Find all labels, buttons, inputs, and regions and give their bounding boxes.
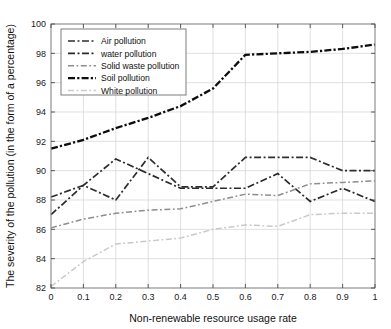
x-tick-label-2: 0.2 [110, 292, 123, 302]
legend-label-0[interactable]: Air pollution [101, 36, 146, 46]
x-tick-label-5: 0.5 [207, 292, 220, 302]
x-tick-label-10: 1 [372, 292, 377, 302]
y-axis-title: The severity of the pollution (in the fo… [4, 24, 16, 288]
y-tick-label-1: 84 [36, 254, 46, 264]
y-tick-label-6: 94 [36, 107, 46, 117]
x-tick-label-4: 0.4 [174, 292, 187, 302]
x-tick-label-0: 0 [48, 292, 53, 302]
x-tick-label-3: 0.3 [142, 292, 155, 302]
legend-label-4[interactable]: White pollution [101, 86, 158, 96]
y-tick-label-4: 90 [36, 166, 46, 176]
y-tick-label-3: 88 [36, 195, 46, 205]
y-tick-label-7: 96 [36, 78, 46, 88]
x-tick-label-6: 0.6 [239, 292, 252, 302]
y-tick-label-0: 82 [36, 283, 46, 293]
x-tick-label-1: 0.1 [77, 292, 90, 302]
y-tick-label-9: 100 [31, 19, 46, 29]
chart-figure: 00.10.20.30.40.50.60.70.80.91 8284868890… [0, 0, 391, 329]
x-tick-label-8: 0.8 [304, 292, 317, 302]
y-tick-label-5: 92 [36, 137, 46, 147]
line-chart: 00.10.20.30.40.50.60.70.80.91 8284868890… [0, 0, 391, 329]
y-tick-label-2: 86 [36, 225, 46, 235]
x-tick-label-7: 0.7 [272, 292, 285, 302]
y-tick-label-8: 98 [36, 49, 46, 59]
legend-label-2[interactable]: Solid waste pollution [101, 61, 180, 71]
legend-label-1[interactable]: water pollution [100, 49, 157, 59]
x-axis-title: Non-renewable resource usage rate [129, 312, 297, 324]
legend: Air pollutionwater pollutionSolid waste … [61, 29, 186, 96]
legend-label-3[interactable]: Soil pollution [101, 73, 150, 83]
x-tick-label-9: 0.9 [336, 292, 349, 302]
